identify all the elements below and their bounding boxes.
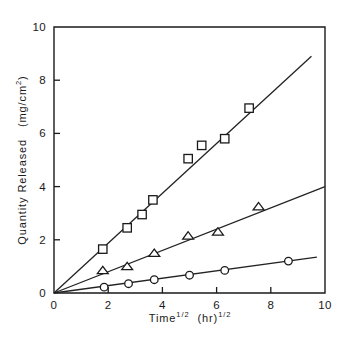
y-axis-title-base3: ) [16,75,28,80]
marker-triangle [253,202,264,209]
y-tick-label: 8 [39,74,46,86]
chart-figure: 02468100246810 Time1/2 (hr)1/2 Quantity … [0,0,347,340]
y-tick-label: 2 [39,234,46,246]
marker-triangle [212,228,223,235]
data-markers [97,104,292,291]
svg-text:Quantity Released (mg/cm2): Quantity Released (mg/cm2) [14,75,28,244]
marker-square [221,135,229,143]
y-tick-label: 10 [32,21,46,33]
fit-lines [54,56,325,293]
y-axis-title-base2: (mg/cm [16,85,28,127]
marker-square [99,245,107,253]
x-axis-title-base2: (hr) [197,312,218,324]
marker-triangle [97,266,108,273]
marker-circle [100,283,108,291]
fit-line-square-series [54,56,311,293]
marker-triangle [183,232,194,239]
y-tick-label: 6 [39,127,46,139]
x-axis-title-sup1: 1/2 [176,310,189,319]
marker-circle [285,257,293,265]
x-tick-label: 8 [267,299,274,311]
marker-square [184,154,192,162]
y-axis-title: Quantity Released (mg/cm2) [14,75,28,244]
y-tick-label: 0 [39,287,46,299]
x-tick-label: 4 [159,299,166,311]
axis-ticks [54,80,271,293]
x-tick-label: 0 [51,299,58,311]
scatter-plot: 02468100246810 Time1/2 (hr)1/2 Quantity … [0,0,347,340]
x-axis-title-base1: Time [149,312,177,324]
x-tick-label: 2 [105,299,112,311]
axis-tick-labels: 02468100246810 [32,21,331,311]
marker-square [123,224,131,232]
marker-square [245,104,253,112]
x-axis-title-sup2: 1/2 [218,310,231,319]
marker-square [149,196,157,204]
marker-circle [150,276,158,284]
y-tick-label: 4 [39,181,46,193]
y-axis-title-base1: Quantity Released [16,139,28,245]
marker-square [138,210,146,218]
marker-square [197,141,205,149]
marker-circle [186,271,194,279]
x-axis-title: Time1/2 (hr)1/2 [149,310,232,324]
marker-circle [125,280,133,288]
svg-text:Time1/2 (hr)1/2: Time1/2 (hr)1/2 [149,310,232,324]
x-tick-label: 10 [318,299,332,311]
marker-circle [221,267,229,275]
